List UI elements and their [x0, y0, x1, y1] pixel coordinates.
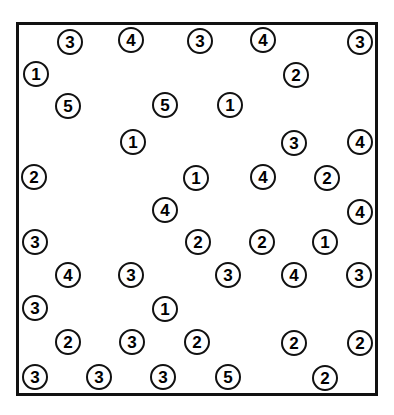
data-point-label: 3 [65, 33, 74, 50]
data-point-label: 2 [320, 369, 329, 386]
data-point-marker: 3 [150, 364, 176, 390]
data-point-label: 4 [355, 203, 364, 220]
data-point-label: 1 [160, 300, 169, 317]
data-point-label: 4 [63, 266, 72, 283]
data-point-marker: 2 [249, 229, 275, 255]
data-point-label: 3 [195, 32, 204, 49]
data-point-marker: 3 [346, 262, 372, 288]
data-point-label: 5 [160, 96, 169, 113]
data-point-label: 1 [225, 96, 234, 113]
data-point-label: 2 [192, 333, 201, 350]
data-point-label: 4 [289, 266, 298, 283]
data-point-label: 2 [355, 334, 364, 351]
data-point-marker: 3 [22, 295, 48, 321]
data-point-marker: 4 [250, 27, 276, 53]
data-point-label: 2 [29, 168, 38, 185]
data-point-marker: 4 [152, 197, 178, 223]
data-point-label: 1 [191, 169, 200, 186]
data-point-marker: 2 [281, 330, 307, 356]
data-point-marker: 4 [347, 129, 373, 155]
data-point-label: 3 [223, 266, 232, 283]
data-point-marker: 2 [314, 165, 340, 191]
data-point-marker: 1 [120, 129, 146, 155]
data-point-marker: 1 [312, 229, 338, 255]
data-point-marker: 5 [152, 92, 178, 118]
data-point-label: 3 [289, 134, 298, 151]
data-point-marker: 3 [118, 262, 144, 288]
data-point-label: 2 [63, 333, 72, 350]
data-point-label: 2 [322, 169, 331, 186]
data-point-label: 3 [355, 33, 364, 50]
data-point-label: 3 [127, 333, 136, 350]
data-point-marker: 2 [185, 229, 211, 255]
data-point-label: 4 [126, 31, 135, 48]
data-point-marker: 3 [22, 364, 48, 390]
data-point-marker: 3 [57, 29, 83, 55]
data-point-marker: 4 [55, 262, 81, 288]
data-point-label: 3 [126, 266, 135, 283]
data-point-marker: 1 [23, 61, 49, 87]
data-point-label: 2 [291, 66, 300, 83]
data-point-label: 3 [30, 368, 39, 385]
data-point-label: 3 [94, 368, 103, 385]
data-point-marker: 2 [347, 330, 373, 356]
data-point-label: 4 [160, 201, 169, 218]
data-point-marker: 2 [21, 164, 47, 190]
data-point-label: 3 [30, 233, 39, 250]
data-point-label: 5 [223, 368, 232, 385]
data-point-marker: 3 [187, 28, 213, 54]
data-point-marker: 3 [215, 262, 241, 288]
data-point-marker: 2 [184, 329, 210, 355]
data-point-marker: 3 [281, 130, 307, 156]
data-point-marker: 4 [250, 164, 276, 190]
data-point-marker: 5 [55, 93, 81, 119]
scatter-figure: 3434312551134214244322143343312322233352 [0, 0, 394, 415]
data-point-label: 3 [354, 266, 363, 283]
data-point-label: 2 [193, 233, 202, 250]
data-point-marker: 1 [183, 165, 209, 191]
data-point-marker: 4 [118, 27, 144, 53]
data-point-label: 5 [63, 97, 72, 114]
data-point-marker: 3 [86, 364, 112, 390]
data-point-label: 1 [31, 65, 40, 82]
data-point-label: 4 [355, 133, 364, 150]
data-point-marker: 2 [55, 329, 81, 355]
data-point-marker: 2 [312, 365, 338, 391]
data-point-marker: 4 [281, 262, 307, 288]
data-point-label: 1 [320, 233, 329, 250]
data-point-label: 2 [289, 334, 298, 351]
data-point-marker: 1 [152, 296, 178, 322]
data-point-label: 2 [257, 233, 266, 250]
data-point-label: 4 [258, 168, 267, 185]
data-point-label: 4 [258, 31, 267, 48]
data-point-label: 3 [158, 368, 167, 385]
data-point-label: 1 [128, 133, 137, 150]
data-point-marker: 3 [347, 29, 373, 55]
data-point-marker: 2 [283, 62, 309, 88]
data-point-marker: 3 [22, 229, 48, 255]
data-point-marker: 1 [217, 92, 243, 118]
data-point-marker: 4 [347, 199, 373, 225]
data-point-marker: 3 [119, 329, 145, 355]
data-point-marker: 5 [215, 364, 241, 390]
data-point-label: 3 [30, 299, 39, 316]
